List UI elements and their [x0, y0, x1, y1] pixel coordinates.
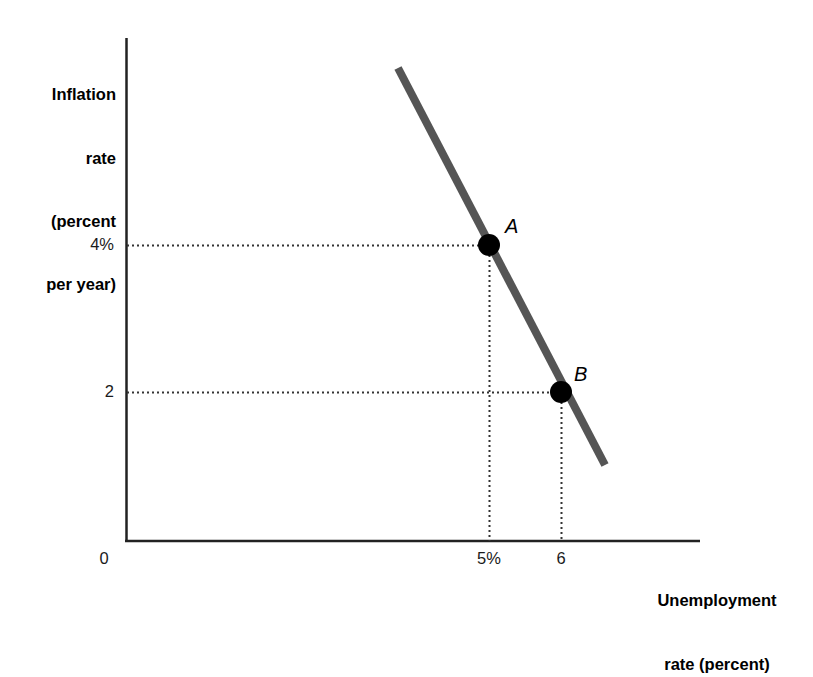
y-axis-tick-label-4-percent: 4% — [44, 235, 114, 254]
x-axis-tick-label-5-percent: 5% — [459, 549, 519, 568]
y-axis-title-line-3: (percent — [6, 211, 116, 232]
y-axis-title-line-1: Inflation — [6, 84, 116, 105]
origin-label: 0 — [84, 549, 124, 568]
phillips-curve-line — [398, 68, 605, 465]
y-axis-title: Inflation rate (percent per year) — [6, 42, 116, 338]
x-axis-tick-label-6: 6 — [531, 549, 591, 568]
x-axis-title: Unemployment rate (percent) — [624, 548, 810, 677]
data-point-b-marker — [550, 381, 572, 403]
y-axis-tick-label-2: 2 — [44, 382, 114, 401]
x-axis-title-line-2: rate (percent) — [624, 654, 810, 675]
data-point-label-a: A — [505, 215, 518, 239]
data-point-label-b: B — [574, 363, 587, 387]
y-axis-title-line-2: rate — [6, 148, 116, 169]
y-axis-title-line-4: per year) — [6, 274, 116, 295]
x-axis-title-line-1: Unemployment — [624, 590, 810, 611]
data-point-a-marker — [478, 234, 500, 256]
